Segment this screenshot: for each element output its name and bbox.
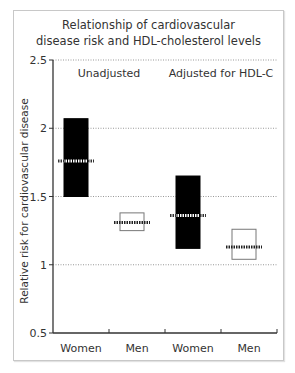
- y-tick-label: 0.5: [30, 327, 48, 340]
- y-tick-label: 1: [40, 259, 47, 272]
- ci-box: [64, 119, 88, 197]
- ci-box: [176, 176, 200, 248]
- x-category-label: Women: [60, 342, 101, 355]
- x-category-label: Women: [172, 342, 213, 355]
- x-category-label: Men: [125, 342, 148, 355]
- panel-label: Adjusted for HDL-C: [169, 67, 274, 80]
- y-tick-label: 2.5: [30, 54, 48, 67]
- plot-area: 0.511.522.5WomenMenWomenMenUnadjustedAdj…: [0, 0, 295, 373]
- ci-box: [232, 229, 256, 259]
- y-tick-label: 1.5: [30, 191, 48, 204]
- y-tick-label: 2: [40, 122, 47, 135]
- x-category-label: Men: [237, 342, 260, 355]
- panel-label: Unadjusted: [78, 67, 141, 80]
